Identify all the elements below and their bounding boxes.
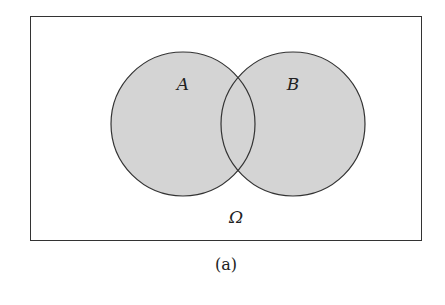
- universe-label: Ω: [228, 207, 243, 227]
- figure-caption: (a): [215, 255, 237, 274]
- set-b-label: B: [286, 74, 300, 94]
- set-a-label: A: [175, 74, 189, 94]
- venn-diagram: A B Ω (a): [0, 0, 445, 305]
